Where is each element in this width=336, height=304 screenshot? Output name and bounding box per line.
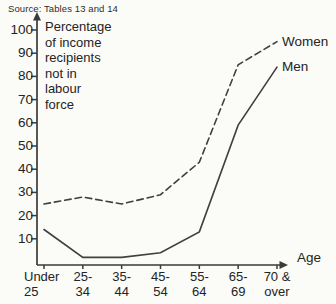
y-tick-label: 40 <box>6 162 33 176</box>
y-axis-arrow-icon <box>33 12 41 21</box>
y-tick-label: 60 <box>6 116 33 130</box>
x-category-label: 25- 34 <box>61 269 105 299</box>
x-axis-arrow-icon <box>280 261 289 269</box>
x-axis-title: Age <box>297 250 321 265</box>
y-tick-label: 70 <box>6 93 33 107</box>
y-tick-label: 20 <box>6 209 33 223</box>
x-category-label: 70 & over <box>255 269 299 299</box>
chart-page: Source: Tables 13 and 14 Percentage of i… <box>0 0 336 304</box>
y-axis-title: Percentage of income recipients not in l… <box>45 19 112 112</box>
y-tick-label: 10 <box>6 232 33 246</box>
x-category-label: 65- 69 <box>216 269 260 299</box>
y-tick-label: 90 <box>6 46 33 60</box>
legend-label-women: Women <box>282 34 328 49</box>
x-category-label: 45- 54 <box>139 269 183 299</box>
y-tick-label: 30 <box>6 185 33 199</box>
y-tick-label: 50 <box>6 139 33 153</box>
x-category-label: 35- 44 <box>100 269 144 299</box>
y-tick-label: 80 <box>6 69 33 83</box>
x-category-label: 55- 64 <box>177 269 221 299</box>
legend-label-men: Men <box>282 59 308 74</box>
y-tick-label: 100 <box>6 23 33 37</box>
